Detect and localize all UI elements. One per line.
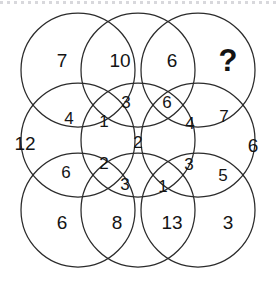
puzzle-circle-r3c1: [21, 153, 135, 267]
number-cell-r2-mid-upper: 3: [121, 94, 130, 111]
number-cell-r4-mid-lower: 3: [120, 176, 129, 193]
puzzle-canvas: 7106?431647122662313568133: [0, 0, 280, 288]
number-cell-r4-lower-core: 2: [99, 155, 108, 172]
number-cell-r1c3-outer: 6: [167, 51, 178, 70]
number-cell-r2-far-right: 7: [219, 108, 228, 125]
puzzle-circle-r1c2: [81, 13, 195, 127]
number-cell-r2-right-lobe: 4: [185, 115, 194, 132]
number-cell-r2-upper-core: 1: [99, 113, 108, 130]
number-cell-r4-far-right: 5: [218, 167, 227, 184]
number-cell-r3-center: 2: [133, 134, 142, 151]
number-cell-r4-right-lobe: 3: [184, 156, 193, 173]
puzzle-circle-r3c3: [141, 153, 255, 267]
puzzle-circle-r2c1: [21, 83, 135, 197]
number-cell-r3-far-left: 12: [14, 134, 35, 153]
number-cell-r3-far-right: 6: [248, 136, 259, 155]
answer-placeholder[interactable]: ?: [219, 45, 238, 76]
number-cell-r5c4-outer: 3: [223, 213, 234, 232]
number-cell-r5c3-outer: 13: [161, 213, 182, 232]
number-cell-r1c2-outer: 10: [109, 51, 130, 70]
number-cell-r1c1-outer: 7: [57, 51, 68, 70]
number-cell-r4-right-lower: 1: [158, 178, 167, 195]
number-cell-r5c2-outer: 8: [112, 213, 123, 232]
number-cell-r4-left-lobe: 6: [61, 164, 70, 181]
number-cell-r5c1-outer: 6: [57, 213, 68, 232]
puzzle-circle-r3c2: [81, 153, 195, 267]
number-cell-r2-left-lobe: 4: [64, 110, 73, 127]
number-cell-r2-right-upper: 6: [162, 94, 171, 111]
puzzle-circle-r1c3: [141, 13, 255, 127]
